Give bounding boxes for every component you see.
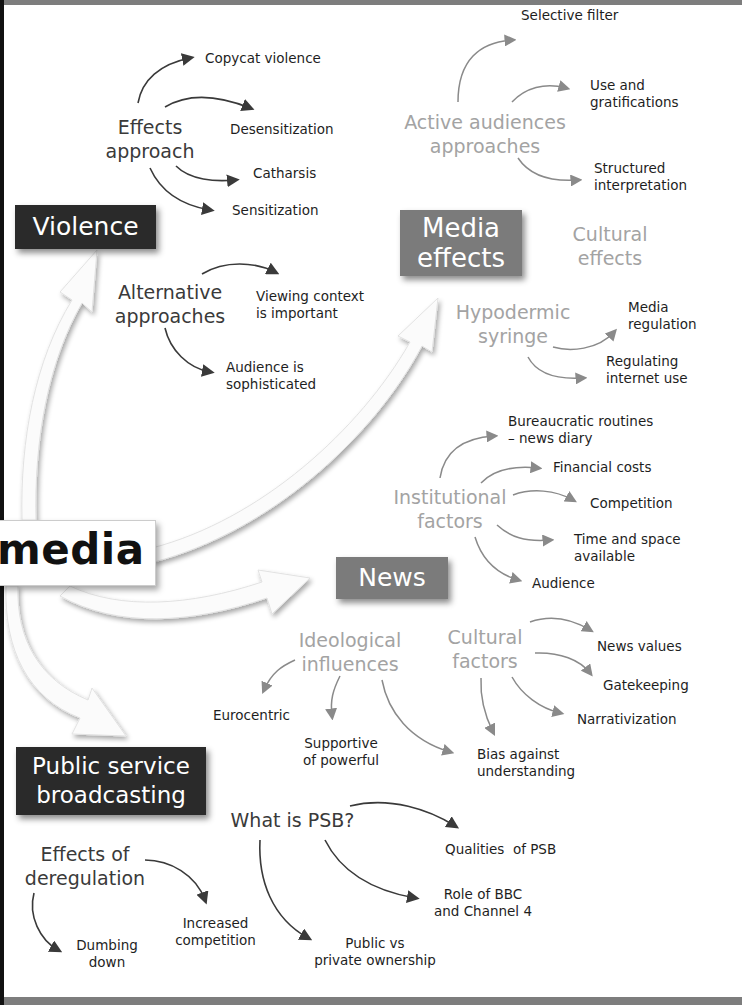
leaf-role-of-bbc: Role of BBC and Channel 4 (428, 886, 538, 920)
topic-media-effects: Media effects (400, 210, 522, 276)
ideological-influences-label: Ideological influences (290, 628, 410, 676)
what-is-psb-label: What is PSB? (230, 808, 355, 832)
leaf-bureaucratic-routines: Bureaucratic routines – news diary (508, 413, 653, 447)
leaf-narrativization: Narrativization (577, 711, 677, 728)
leaf-desensitization: Desensitization (230, 121, 334, 138)
leaf-structured-interpretation: Structured interpretation (594, 160, 687, 194)
leaf-bias-against-understanding: Bias against understanding (477, 746, 575, 780)
leaf-qualities-of-psb: Qualities of PSB (445, 841, 556, 858)
effects-approach-label: Effects approach (95, 115, 205, 163)
topic-public-service-broadcasting: Public service broadcasting (16, 747, 206, 815)
leaf-time-and-space: Time and space available (574, 531, 681, 565)
leaf-sensitization: Sensitization (232, 202, 318, 219)
leaf-dumbing-down: Dumbing down (72, 937, 142, 971)
hypodermic-syringe-label: Hypodermic syringe (453, 300, 573, 348)
leaf-selective-filter: Selective filter (521, 7, 618, 24)
leaf-news-values: News values (597, 638, 682, 655)
topic-violence: Violence (15, 205, 156, 249)
leaf-increased-competition: Increased competition (168, 915, 263, 949)
effects-of-deregulation-label: Effects of deregulation (20, 842, 150, 890)
cultural-factors-label: Cultural factors (440, 625, 530, 673)
central-label: media (0, 525, 145, 574)
cultural-effects-label: Cultural effects (560, 222, 660, 270)
leaf-regulating-internet: Regulating internet use (606, 353, 688, 387)
leaf-use-and-gratifications: Use and gratifications (590, 77, 679, 111)
leaf-media-regulation: Media regulation (628, 299, 697, 333)
active-audiences-label: Active audiences approaches (400, 110, 570, 158)
leaf-eurocentric: Eurocentric (213, 707, 290, 724)
leaf-gatekeeping: Gatekeeping (603, 677, 689, 694)
leaf-audience-sophisticated: Audience is sophisticated (226, 359, 316, 393)
leaf-viewing-context: Viewing context is important (256, 288, 364, 322)
leaf-public-vs-private: Public vs private ownership (310, 935, 440, 969)
leaf-financial-costs: Financial costs (553, 459, 651, 476)
alternative-approaches-label: Alternative approaches (110, 280, 230, 328)
leaf-copycat-violence: Copycat violence (205, 50, 321, 67)
topic-violence-label: Violence (15, 205, 156, 249)
central-node-media: media (0, 520, 156, 586)
topic-news: News (336, 557, 448, 599)
leaf-supportive-of-powerful: Supportive of powerful (300, 735, 382, 769)
leaf-audience: Audience (532, 575, 595, 592)
institutional-factors-label: Institutional factors (390, 485, 510, 533)
leaf-catharsis: Catharsis (253, 165, 316, 182)
leaf-competition: Competition (590, 495, 673, 512)
